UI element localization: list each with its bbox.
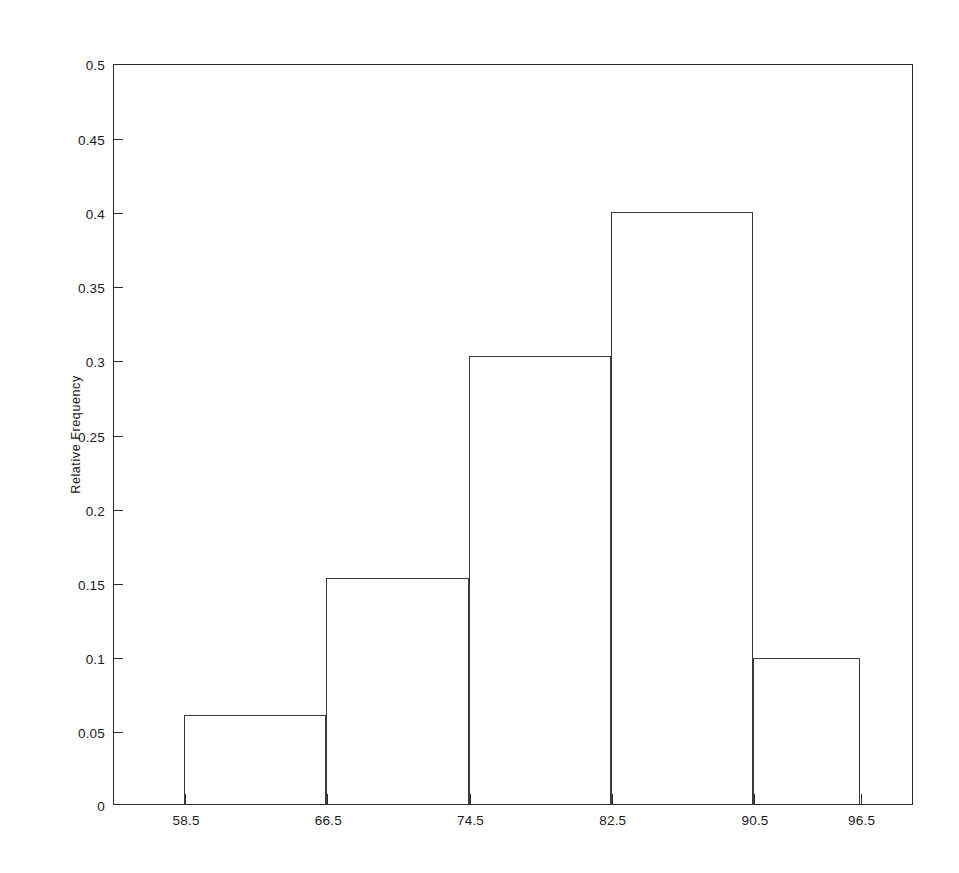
histogram-bar [184, 715, 326, 805]
y-axis-tick-label: 0 [97, 799, 105, 814]
x-axis-tick-label: 66.5 [315, 813, 342, 828]
y-axis-tick: 0.2 [114, 510, 123, 511]
y-axis-tick: 0.35 [114, 287, 123, 288]
x-axis-tick-label: 82.5 [599, 813, 626, 828]
y-axis-tick-label: 0.35 [78, 281, 105, 296]
y-axis-tick-label: 0.25 [78, 429, 105, 444]
y-axis-tick-label: 0.45 [78, 133, 105, 148]
y-axis-tick-label: 0.15 [78, 577, 105, 592]
y-axis-tick-label: 0.05 [78, 725, 105, 740]
histogram-bar [611, 212, 753, 805]
y-axis-tick: 0.15 [114, 584, 123, 585]
x-axis-tick: 96.5 [861, 794, 862, 804]
histogram-figure: 00.050.10.150.20.250.30.350.40.450.558.5… [0, 0, 959, 873]
y-axis-tick: 0.1 [114, 658, 123, 659]
x-axis-tick-label: 90.5 [741, 813, 768, 828]
x-axis-tick-label: 74.5 [457, 813, 484, 828]
histogram-bar [326, 578, 468, 805]
y-axis-tick-label: 0.5 [86, 58, 105, 73]
y-axis-tick: 0.4 [114, 213, 123, 214]
histogram-bar [469, 356, 611, 805]
y-axis-tick-label: 0.3 [86, 355, 105, 370]
y-axis-tick: 0.25 [114, 436, 123, 437]
y-axis-tick: 0.3 [114, 361, 123, 362]
x-axis-tick-label: 96.5 [848, 813, 875, 828]
y-axis-tick-label: 0.2 [86, 503, 105, 518]
x-axis-tick-label: 58.5 [173, 813, 200, 828]
y-axis-tick: 0.45 [114, 139, 123, 140]
histogram-bar [753, 658, 860, 805]
y-axis-tick-label: 0.1 [86, 651, 105, 666]
y-axis-tick: 0.05 [114, 732, 123, 733]
y-axis-tick-label: 0.4 [86, 207, 105, 222]
